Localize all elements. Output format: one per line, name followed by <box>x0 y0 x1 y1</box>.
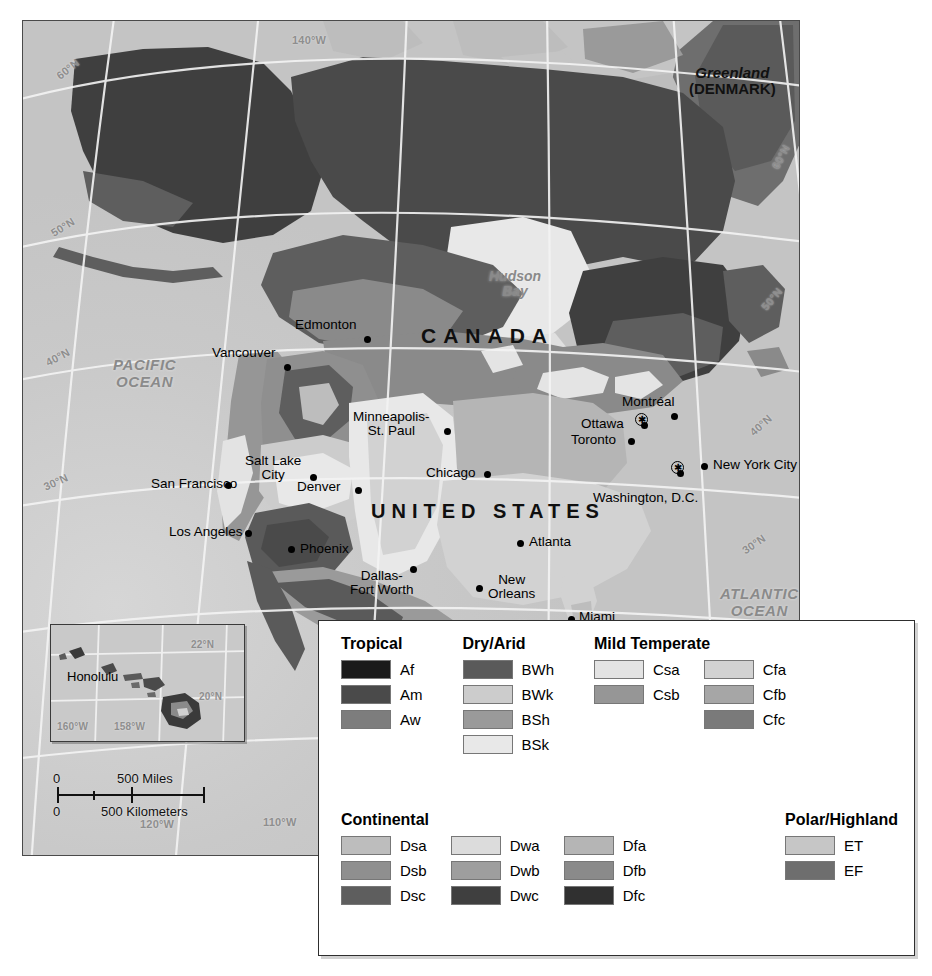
legend-columns-tropical: AfAmAw <box>341 660 423 729</box>
city-label-toronto: Toronto <box>571 433 616 447</box>
scale-tick-mid <box>131 787 133 803</box>
city-dot-edmonton <box>364 336 371 343</box>
legend-code-bsk: BSk <box>522 737 550 752</box>
city-label-los-angeles: Los Angeles <box>169 525 243 539</box>
legend-swatch-bwh <box>463 660 513 679</box>
legend-swatch-csa <box>594 660 644 679</box>
legend-item-dsa[interactable]: Dsa <box>341 836 427 855</box>
scale-tick-min1 <box>93 791 95 800</box>
scale-km-zero: 0 <box>53 804 60 819</box>
legend-columns-polar-highland: ETEF <box>785 836 898 880</box>
water-label-hudson-bay: HudsonBay <box>489 269 541 300</box>
legend-item-csb[interactable]: Csb <box>594 685 680 704</box>
water-label-atlantic-ocean: ATLANTICOCEAN <box>720 586 799 619</box>
city-label-salt-lake-city: Salt LakeCity <box>245 454 301 483</box>
water-label-pacific-ocean: PACIFICOCEAN <box>113 357 176 390</box>
scale-tick-end <box>203 787 205 803</box>
legend-code-ef: EF <box>844 863 863 878</box>
city-label-line1: New <box>498 572 525 587</box>
scale-bar-miles-row: 0 500 Miles <box>53 771 243 786</box>
hawaii-city-honolulu: Honolulu <box>67 669 118 684</box>
city-dot-phoenix <box>288 546 295 553</box>
legend-item-bsh[interactable]: BSh <box>463 710 555 729</box>
legend-title-dry-arid: Dry/Arid <box>463 635 555 653</box>
city-label-denver: Denver <box>297 480 341 494</box>
legend-code-csa: Csa <box>653 662 680 677</box>
legend-item-aw[interactable]: Aw <box>341 710 423 729</box>
city-label-ottawa: Ottawa <box>581 417 624 431</box>
city-label-minneapolis-st-paul: Minneapolis-St. Paul <box>353 410 430 439</box>
city-dot-atlanta <box>517 540 524 547</box>
legend-item-dwc[interactable]: Dwc <box>451 886 540 905</box>
legend-group-continental: Continental DsaDsbDscDwaDwbDwcDfaDfbDfc <box>341 811 646 905</box>
legend-title-polar-highland: Polar/Highland <box>785 811 898 829</box>
legend-code-et: ET <box>844 838 863 853</box>
legend-swatch-dfb <box>564 861 614 880</box>
legend-item-et[interactable]: ET <box>785 836 863 855</box>
scale-miles-label: 500 Miles <box>117 771 173 786</box>
legend-item-am[interactable]: Am <box>341 685 423 704</box>
hawaii-graticule-label-22n: 22°N <box>191 639 214 650</box>
legend-spacer <box>423 635 463 805</box>
legend-top-row: Tropical AfAmAw Dry/Arid BWhBWkBShBSk Mi… <box>341 635 898 805</box>
scale-bar-km-row: 0 500 Kilometers <box>53 804 243 819</box>
city-dot-new-orleans <box>476 585 483 592</box>
hawaii-graticule-label-160w: 160°W <box>57 721 88 732</box>
legend-code-aw: Aw <box>400 712 421 727</box>
legend-swatch-aw <box>341 710 391 729</box>
legend-code-dfc: Dfc <box>623 888 646 903</box>
city-label-vancouver: Vancouver <box>212 346 276 360</box>
legend-item-bsk[interactable]: BSk <box>463 735 555 754</box>
legend-item-bwk[interactable]: BWk <box>463 685 555 704</box>
water-label-line1: PACIFIC <box>113 356 176 373</box>
legend-code-dwa: Dwa <box>510 838 540 853</box>
capital-star-icon-washington-d-c <box>671 461 684 474</box>
water-label-line1: Hudson <box>489 268 541 284</box>
legend-item-dsb[interactable]: Dsb <box>341 861 427 880</box>
legend-item-bwh[interactable]: BWh <box>463 660 555 679</box>
city-label-line1: Dallas- <box>361 568 403 583</box>
legend-item-dwb[interactable]: Dwb <box>451 861 540 880</box>
city-label-line2: Fort Worth <box>350 582 414 597</box>
legend-columns-dry-arid: BWhBWkBShBSk <box>463 660 555 754</box>
country-label-canada: CANADA <box>421 324 554 348</box>
graticule-label-110w: 110°W <box>263 816 297 828</box>
legend-swatch-dfc <box>564 886 614 905</box>
legend-column-mild-temperate-1: CfaCfbCfc <box>704 660 786 729</box>
legend-column-dry-arid-0: BWhBWkBShBSk <box>463 660 555 754</box>
legend-swatch-dsb <box>341 861 391 880</box>
country-label-united-states: UNITED STATES <box>371 500 605 523</box>
legend-swatch-dsa <box>341 836 391 855</box>
legend-code-csb: Csb <box>653 687 680 702</box>
legend-code-bwk: BWk <box>522 687 554 702</box>
legend-code-dsc: Dsc <box>400 888 426 903</box>
legend-column-tropical-0: AfAmAw <box>341 660 423 729</box>
legend-code-dfa: Dfa <box>623 838 646 853</box>
scale-km-label: 500 Kilometers <box>101 804 188 819</box>
city-label-line1: Salt Lake <box>245 453 301 468</box>
city-label-edmonton: Edmonton <box>295 318 357 332</box>
city-label-line1: Minneapolis- <box>353 409 430 424</box>
legend-item-csa[interactable]: Csa <box>594 660 680 679</box>
scale-bar-graphic <box>53 787 243 803</box>
legend-item-af[interactable]: Af <box>341 660 423 679</box>
legend-item-cfc[interactable]: Cfc <box>704 710 786 729</box>
legend-item-cfa[interactable]: Cfa <box>704 660 786 679</box>
legend-swatch-bsh <box>463 710 513 729</box>
legend-item-cfb[interactable]: Cfb <box>704 685 786 704</box>
legend-item-dsc[interactable]: Dsc <box>341 886 427 905</box>
legend-item-dfb[interactable]: Dfb <box>564 861 646 880</box>
legend-item-dfa[interactable]: Dfa <box>564 836 646 855</box>
legend-swatch-dfa <box>564 836 614 855</box>
legend-group-dry-arid: Dry/Arid BWhBWkBShBSk <box>463 635 555 805</box>
hawaii-graticule-label-20n: 20°N <box>199 691 222 702</box>
legend-item-dwa[interactable]: Dwa <box>451 836 540 855</box>
hawaii-inset-map: Honolulu 22°N20°N160°W158°W <box>50 624 245 742</box>
legend-swatch-am <box>341 685 391 704</box>
legend-item-dfc[interactable]: Dfc <box>564 886 646 905</box>
legend-code-am: Am <box>400 687 423 702</box>
legend-swatch-cfb <box>704 685 754 704</box>
legend-item-ef[interactable]: EF <box>785 861 863 880</box>
map-legend: Tropical AfAmAw Dry/Arid BWhBWkBShBSk Mi… <box>318 620 915 956</box>
city-dot-toronto <box>628 438 635 445</box>
